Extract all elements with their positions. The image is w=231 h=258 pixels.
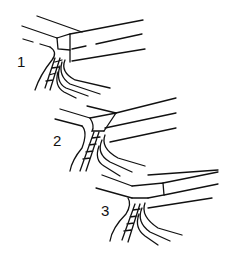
panel-3: 3 bbox=[96, 172, 218, 245]
panel-1-label: 1 bbox=[17, 53, 25, 70]
panel-1: 1 bbox=[17, 16, 145, 98]
panel-2-label: 2 bbox=[53, 132, 61, 149]
panel-3-label: 3 bbox=[101, 202, 109, 219]
diagram: 1 2 3 bbox=[0, 0, 231, 258]
panel-2: 2 bbox=[53, 98, 218, 176]
